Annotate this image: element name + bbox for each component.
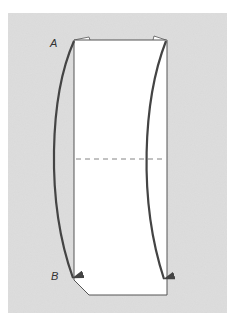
folding-diagram: A B <box>0 0 237 327</box>
paper-sheet <box>74 40 167 295</box>
label-point-b: B <box>51 270 58 282</box>
label-point-a: A <box>49 37 57 49</box>
